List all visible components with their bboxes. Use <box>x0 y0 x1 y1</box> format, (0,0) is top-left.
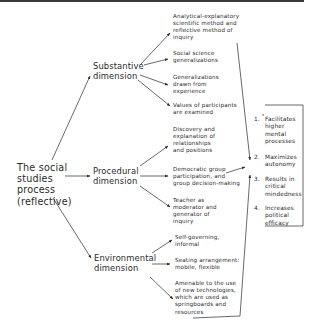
environmental-item: Self-governing, informal <box>175 234 219 248</box>
result-number: 2. <box>254 154 265 161</box>
item-line: relationships <box>173 140 215 147</box>
item-line: informal <box>175 241 219 248</box>
result-line: mental <box>265 131 296 138</box>
result-line: Facilitates <box>265 116 296 123</box>
item-line: scientific method and <box>173 20 239 27</box>
item-line: and positions <box>173 147 215 154</box>
item-line: Seating arrangement: <box>175 257 239 264</box>
dimension-line: dimension <box>94 264 156 274</box>
edge-substantive-item-2 <box>144 59 168 65</box>
edge-environmental-item-1 <box>152 240 172 253</box>
item-line: group decision-making <box>173 180 240 187</box>
root-line: studies <box>17 173 72 184</box>
item-line: Democratic group <box>173 166 240 173</box>
substantive-dimension: Substantive dimension <box>93 62 144 81</box>
environmental-item: Seating arrangement: mobile, flexible <box>175 257 239 271</box>
result-item: 1. Facilitates higher mental processes <box>254 116 296 146</box>
procedural-item: Democratic group participation, and grou… <box>173 166 240 187</box>
item-line: springboards and <box>175 301 236 308</box>
item-line: Values of participants <box>173 102 237 109</box>
item-line: moderator and <box>173 204 217 211</box>
item-line: explanation of <box>173 133 215 140</box>
root-line: process <box>17 184 72 195</box>
item-line: Teacher as <box>173 197 217 204</box>
substantive-item: Generalizations drawn from experience <box>173 74 219 95</box>
substantive-item: Analytical-explanatory scientific method… <box>173 13 239 42</box>
result-line: autonomy <box>265 161 297 168</box>
item-line: Analytical-explanatory <box>173 13 239 20</box>
result-line: Results in <box>265 176 302 183</box>
result-line: processes <box>265 138 296 145</box>
result-number: 4. <box>254 205 265 212</box>
result-line: efficacy <box>265 220 294 227</box>
root-line: The social <box>17 162 72 173</box>
edge-substantive-item-1 <box>140 33 170 65</box>
procedural-dimension: Procedural dimension <box>93 167 139 186</box>
environmental-dimension: Environmental dimension <box>94 254 156 273</box>
item-line: which are used as <box>175 294 236 301</box>
item-line: Discovery and <box>173 126 215 133</box>
item-line: participation, and <box>173 173 240 180</box>
item-line: generator of <box>173 211 217 218</box>
item-line: Social science <box>173 50 218 57</box>
result-item: 4. Increases political efficacy <box>254 205 294 227</box>
item-line: experience <box>173 88 219 95</box>
item-line: of new technologies, <box>175 287 236 294</box>
result-line: higher <box>265 123 296 130</box>
edge-substantive-to-results <box>237 43 250 160</box>
root-node: The social studies process (reflective) <box>17 162 72 207</box>
procedural-item: Discovery and explanation of relationshi… <box>173 126 215 155</box>
substantive-item: Social science generalizations <box>173 50 218 64</box>
result-line: mindedness <box>265 191 302 198</box>
result-number: 1. <box>254 116 265 123</box>
item-line: inquiry <box>173 218 217 225</box>
environmental-item: Amenable to the use of new technologies,… <box>175 280 236 316</box>
edge-procedural-item-3 <box>140 186 170 207</box>
result-item: 2. Maximizes autonomy <box>254 154 297 169</box>
result-number: 3. <box>254 176 265 183</box>
item-line: resources <box>175 309 236 316</box>
result-line: critical <box>265 183 302 190</box>
edge-procedural-item-1 <box>140 146 168 166</box>
item-line: generalizations <box>173 57 218 64</box>
procedural-item: Teacher as moderator and generator of in… <box>173 197 217 226</box>
edge-substantive-item-3 <box>140 75 168 85</box>
item-line: Self-governing, <box>175 234 219 241</box>
item-line: inquiry <box>173 34 239 41</box>
result-line: Increases <box>265 205 294 212</box>
substantive-item: Values of participants are examined <box>173 102 237 116</box>
item-line: drawn from <box>173 81 219 88</box>
item-line: Amenable to the use <box>175 280 236 287</box>
root-line: (reflective) <box>17 196 72 207</box>
dimension-line: dimension <box>93 72 144 82</box>
dimension-line: dimension <box>93 177 139 187</box>
item-line: reflective method of <box>173 27 239 34</box>
edge-root-substantive <box>52 76 90 160</box>
item-line: are examined <box>173 109 237 116</box>
item-line: Generalizations <box>173 74 219 81</box>
edge-environmental-item-3 <box>150 277 173 299</box>
result-line: Maximizes <box>265 154 297 161</box>
item-line: mobile, flexible <box>175 264 239 271</box>
result-line: political <box>265 212 294 219</box>
result-item: 3. Results in critical mindedness <box>254 176 302 198</box>
